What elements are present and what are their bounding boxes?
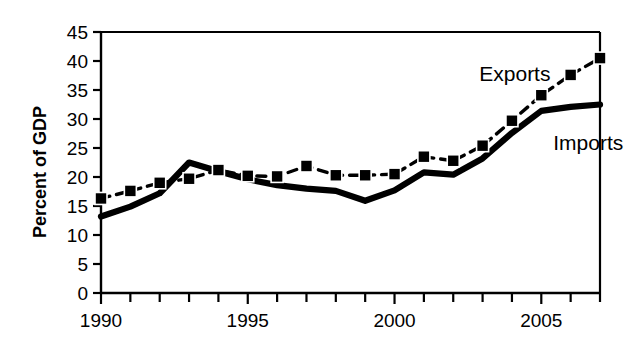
x-tick-label: 2000 (373, 310, 415, 331)
y-tick-label: 40 (67, 51, 88, 72)
y-tick-label: 5 (77, 254, 88, 275)
data-point-marker (536, 90, 546, 100)
y-tick-label: 15 (67, 196, 88, 217)
data-point-marker (331, 170, 341, 180)
data-point-marker (565, 70, 575, 80)
x-tick-label: 2005 (520, 310, 562, 331)
data-point-marker (419, 152, 429, 162)
line-chart: Percent of GDP 051015202530354045 199019… (0, 0, 631, 344)
data-point-marker (125, 186, 135, 196)
y-tick-label: 20 (67, 167, 88, 188)
series-label-exports: Exports (479, 62, 550, 85)
y-axis-title: Percent of GDP (30, 106, 50, 238)
x-tick-label: 1995 (227, 310, 269, 331)
data-point-marker (213, 165, 223, 175)
data-point-marker (301, 161, 311, 171)
data-point-marker (595, 53, 605, 63)
x-tick-label: 1990 (80, 310, 122, 331)
chart-container: Percent of GDP 051015202530354045 199019… (0, 0, 631, 344)
data-point-marker (507, 116, 517, 126)
y-tick-label: 35 (67, 80, 88, 101)
data-point-marker (184, 174, 194, 184)
data-point-marker (389, 169, 399, 179)
y-tick-label: 30 (67, 109, 88, 130)
data-point-marker (96, 193, 106, 203)
y-tick-label: 10 (67, 225, 88, 246)
series-line-imports (101, 105, 600, 217)
data-point-marker (477, 140, 487, 150)
data-point-marker (243, 171, 253, 181)
x-axis-ticks: 1990199520002005 (80, 293, 600, 331)
y-tick-label: 45 (67, 22, 88, 43)
y-axis-ticks: 051015202530354045 (67, 22, 101, 304)
data-point-marker (448, 156, 458, 166)
y-tick-label: 25 (67, 138, 88, 159)
data-point-marker (360, 170, 370, 180)
data-point-marker (155, 178, 165, 188)
series-label-imports: Imports (553, 131, 623, 154)
data-point-marker (272, 171, 282, 181)
y-tick-label: 0 (77, 283, 88, 304)
